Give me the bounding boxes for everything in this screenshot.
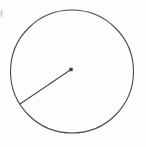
center-point-dot [69,68,72,71]
figure-background [0,0,146,147]
edge-smudge-artifact [1,10,3,17]
circle-diagram-svg [0,0,146,147]
geometry-figure-canvas: Circle with a radius drawn from the cent… [0,0,146,147]
